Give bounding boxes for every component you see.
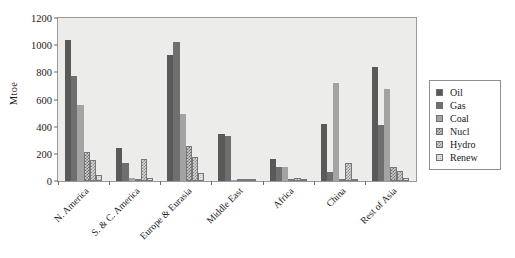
bar-group <box>263 18 314 181</box>
legend-label: Oil <box>450 88 463 98</box>
bar-gas-3 <box>225 136 231 181</box>
plot-inner: 020040060080010001200 <box>58 18 416 181</box>
legend-swatch-oil-icon <box>436 89 443 96</box>
legend-rows: OilGasCoalNuclHydroRenew <box>436 86 496 164</box>
y-tick-label-1000: 1000 <box>12 40 58 51</box>
bar-coal-5 <box>333 83 339 181</box>
y-tick-label-0: 0 <box>12 176 58 187</box>
bar-renew-1 <box>147 178 153 181</box>
y-tick-label-800: 800 <box>12 67 58 78</box>
bar-group <box>160 18 211 181</box>
legend-label: Hydro <box>450 140 476 150</box>
x-label-slot: Europe & Eurasia <box>160 183 211 255</box>
x-label-slot: Rest of Asia <box>366 183 417 255</box>
chart-legend: OilGasCoalNuclHydroRenew <box>429 80 501 170</box>
plot-area: 020040060080010001200 <box>57 17 417 182</box>
legend-label: Gas <box>450 101 466 111</box>
x-label-slot: Middle East <box>211 183 262 255</box>
legend-item-renew[interactable]: Renew <box>436 151 496 164</box>
legend-label: Nucl <box>450 127 469 137</box>
legend-item-gas[interactable]: Gas <box>436 99 496 112</box>
x-axis-labels: N. AmericaS. & C. AmericaEurope & Eurasi… <box>57 183 417 255</box>
energy-consumption-bar-chart: Mtoe 020040060080010001200 N. AmericaS. … <box>0 0 515 258</box>
legend-swatch-renew-icon <box>436 154 443 161</box>
bar-group <box>58 18 109 181</box>
y-tick-label-200: 200 <box>12 148 58 159</box>
bar-group <box>365 18 416 181</box>
legend-label: Renew <box>450 153 478 163</box>
x-axis-label-0: N. America <box>51 185 90 224</box>
bar-group <box>314 18 365 181</box>
legend-item-hydro[interactable]: Hydro <box>436 138 496 151</box>
bar-renew-4 <box>301 179 307 181</box>
y-tick-label-1200: 1200 <box>12 13 58 24</box>
bar-renew-2 <box>198 173 204 181</box>
legend-item-nucl[interactable]: Nucl <box>436 125 496 138</box>
legend-swatch-nucl-icon <box>436 128 443 135</box>
x-axis-label-4: Africa <box>271 185 296 210</box>
y-tick-label-400: 400 <box>12 121 58 132</box>
bar-group <box>211 18 262 181</box>
legend-item-coal[interactable]: Coal <box>436 112 496 125</box>
bar-renew-5 <box>352 179 358 181</box>
bar-group <box>109 18 160 181</box>
bar-renew-0 <box>96 175 102 181</box>
legend-label: Coal <box>450 114 469 124</box>
legend-swatch-coal-icon <box>436 115 443 122</box>
x-label-slot: Africa <box>263 183 314 255</box>
bar-renew-6 <box>403 178 409 181</box>
legend-swatch-hydro-icon <box>436 141 443 148</box>
y-tick-label-600: 600 <box>12 94 58 105</box>
bar-renew-3 <box>249 179 255 181</box>
legend-item-oil[interactable]: Oil <box>436 86 496 99</box>
bar-groups <box>58 18 416 181</box>
x-axis-label-5: China <box>324 185 348 209</box>
legend-swatch-gas-icon <box>436 102 443 109</box>
